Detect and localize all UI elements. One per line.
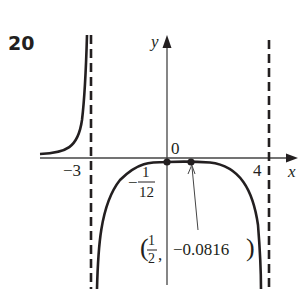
annotation-value: −0.0816 bbox=[173, 241, 229, 258]
point-y-intercept bbox=[163, 158, 170, 165]
y-axis-arrow-icon bbox=[163, 35, 172, 48]
annotation-frac-denominator: 2 bbox=[148, 252, 155, 266]
annotation-close-paren: ) bbox=[246, 235, 255, 261]
x-axis-label: x bbox=[288, 163, 296, 180]
origin-label: 0 bbox=[171, 140, 180, 157]
problem-number: 20 bbox=[8, 32, 34, 54]
y-tick-numerator: 1 bbox=[142, 165, 150, 180]
annotation-arrowhead-icon bbox=[188, 165, 195, 174]
curve-left-branch bbox=[40, 35, 87, 154]
x-tick-neg3: −3 bbox=[63, 162, 81, 179]
point-local-max bbox=[187, 158, 194, 165]
annotation-frac-numerator: 1 bbox=[148, 234, 155, 248]
x-tick-4: 4 bbox=[253, 162, 262, 179]
curve-middle-branch bbox=[97, 162, 261, 289]
annotation-comma: , bbox=[158, 246, 162, 263]
y-axis-label: y bbox=[151, 33, 159, 50]
y-tick-denominator: 12 bbox=[139, 185, 154, 200]
graph-figure: 20 y x 0 −3 4 − 1 12 ( 1 2 , −0.0816 ) bbox=[0, 0, 302, 289]
y-tick-minus: − bbox=[128, 174, 138, 191]
annotation-pointer-line bbox=[192, 167, 198, 230]
